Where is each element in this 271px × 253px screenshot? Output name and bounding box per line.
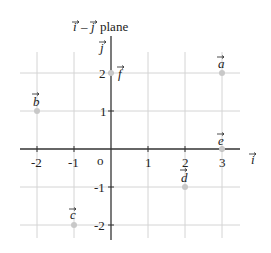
svg-text:–: – [80,19,88,34]
x-axis-label: i [249,152,256,167]
svg-text:-1: -1 [68,155,79,170]
svg-text:d: d [181,170,188,185]
svg-text:1: 1 [145,155,152,170]
y-axis-label: j [98,40,106,55]
grid [20,52,240,238]
svg-text:2: 2 [182,155,189,170]
svg-text:-2: -2 [31,155,42,170]
svg-text:1: 1 [100,104,107,119]
svg-text:j: j [89,19,95,34]
svg-text:a: a [218,56,225,71]
svg-text:o: o [97,153,104,168]
x-tick-labels: -2 -1 o 1 2 3 [31,153,226,170]
vector-plane-diagram: i – j plane j i -2 -1 o 1 2 3 2 1 -1 -2 … [0,0,271,253]
plot-title: i – j plane [72,19,128,34]
svg-text:i: i [73,19,77,34]
svg-text:plane: plane [100,19,128,34]
svg-text:2: 2 [99,66,106,81]
svg-text:-2: -2 [94,218,105,233]
svg-text:e: e [218,133,224,148]
svg-text:3: 3 [219,155,226,170]
svg-text:-1: -1 [94,180,105,195]
svg-text:b: b [33,94,40,109]
